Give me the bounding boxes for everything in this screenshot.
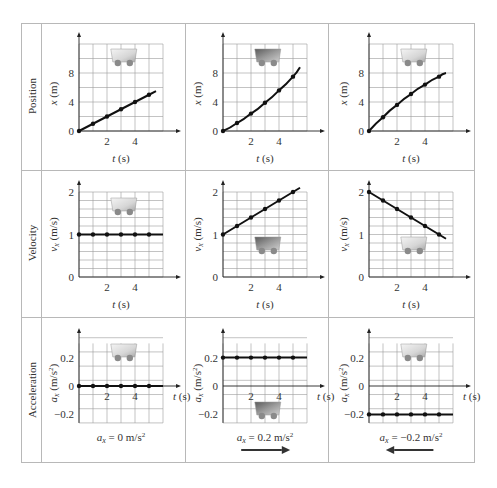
x-tick-label: 2	[248, 135, 254, 147]
data-line	[79, 91, 156, 131]
data-point	[119, 384, 123, 388]
x-axis-label: t (s)	[402, 152, 420, 165]
data-point	[91, 122, 95, 126]
data-point	[119, 232, 123, 236]
plot-acceleration-2: −0.200.224t (s)ax (m/s2)ax = 0.2 m/s2	[191, 328, 335, 454]
y-axis-label: ax (m/s2)	[47, 364, 61, 403]
data-point	[437, 74, 441, 78]
data-point	[221, 232, 225, 236]
data-point	[291, 190, 295, 194]
y-axis-label: vx (m/s)	[191, 217, 205, 252]
y-tick-label: 0	[213, 380, 219, 392]
y-tick-label: 0	[359, 271, 365, 283]
acceleration-caption: ax = 0 m/s2	[97, 431, 146, 445]
x-tick-label: 4	[132, 390, 138, 402]
y-axis-label: vx (m/s)	[47, 217, 61, 252]
data-point	[381, 198, 385, 202]
y-tick-label: 0	[69, 271, 75, 283]
cart-icon	[111, 198, 137, 215]
y-tick-label: 4	[69, 96, 75, 108]
data-point	[235, 224, 239, 228]
cart-icon	[111, 344, 137, 361]
data-line	[223, 67, 300, 131]
data-point	[133, 232, 137, 236]
data-point	[105, 384, 109, 388]
x-axis-label: t (s)	[173, 390, 191, 403]
acceleration-caption: ax = −0.2 m/s2	[380, 431, 443, 445]
y-tick-label: 4	[213, 96, 219, 108]
data-line	[223, 188, 300, 235]
data-point	[221, 129, 225, 133]
cart-icon	[111, 49, 137, 66]
plot-axes	[77, 180, 181, 279]
data-point	[249, 355, 253, 359]
plot-velocity-2: 01224t (s)vx (m/s)	[191, 180, 325, 311]
data-point	[77, 232, 81, 236]
data-point	[119, 107, 123, 111]
row-label-velocity: Velocity	[26, 183, 38, 303]
data-point	[263, 101, 267, 105]
data-point	[409, 215, 413, 219]
y-tick-label: 2	[69, 186, 75, 198]
data-point	[423, 224, 427, 228]
y-tick-label: −0.2	[198, 408, 218, 420]
y-tick-label: 4	[359, 96, 365, 108]
data-point	[91, 232, 95, 236]
y-axis-label: ax (m/s2)	[337, 364, 351, 403]
y-tick-label: 0	[359, 125, 365, 137]
y-axis-label: vx (m/s)	[337, 217, 351, 252]
x-tick-label: 4	[422, 281, 428, 293]
data-point	[263, 355, 267, 359]
y-axis-label: x (m)	[47, 81, 60, 106]
motion-graphs-figure: 04824t (s)x (m)04824t (s)x (m)04824t (s)…	[0, 0, 497, 488]
x-tick-label: 4	[276, 281, 282, 293]
data-point	[381, 412, 385, 416]
y-tick-label: 0.2	[204, 352, 218, 364]
plot-axes	[367, 180, 471, 279]
data-point	[77, 384, 81, 388]
plot-position-3: 04824t (s)x (m)	[337, 32, 471, 165]
plot-acceleration-3: −0.200.224t (s)ax (m/s2)ax = −0.2 m/s2	[337, 328, 481, 454]
y-tick-label: 8	[69, 67, 75, 79]
y-tick-label: 2	[359, 186, 365, 198]
y-tick-label: 0	[69, 380, 75, 392]
data-point	[105, 114, 109, 118]
y-axis-label: x (m)	[337, 81, 350, 106]
plot-grid	[223, 192, 307, 277]
x-axis-label: t (s)	[317, 390, 335, 403]
data-point	[437, 412, 441, 416]
y-tick-label: 0	[213, 125, 219, 137]
data-point	[147, 384, 151, 388]
y-tick-label: 0.2	[60, 352, 74, 364]
x-tick-label: 4	[422, 390, 428, 402]
x-tick-label: 2	[104, 135, 110, 147]
x-axis-label: t (s)	[463, 390, 481, 403]
data-point	[91, 384, 95, 388]
arrow-left-icon	[386, 446, 434, 454]
data-point	[263, 207, 267, 211]
plot-acceleration-1: −0.200.224t (s)ax (m/s2)ax = 0 m/s2	[47, 328, 191, 445]
x-tick-label: 4	[132, 281, 138, 293]
data-point	[423, 82, 427, 86]
y-tick-label: 0	[69, 125, 75, 137]
data-point	[291, 74, 295, 78]
plot-velocity-3: 01224t (s)vx (m/s)	[337, 180, 471, 311]
x-axis-label: t (s)	[402, 298, 420, 311]
data-point	[105, 232, 109, 236]
data-point	[409, 412, 413, 416]
x-axis-label: t (s)	[112, 152, 130, 165]
data-point	[277, 88, 281, 92]
cart-icon	[255, 49, 281, 66]
data-point	[77, 129, 81, 133]
x-axis-label: t (s)	[256, 298, 274, 311]
plot-position-1: 04824t (s)x (m)	[47, 32, 181, 165]
row-label-position: Position	[26, 36, 38, 156]
data-point	[367, 190, 371, 194]
y-tick-label: 2	[213, 186, 219, 198]
x-axis-label: t (s)	[112, 298, 130, 311]
x-tick-label: 2	[104, 281, 110, 293]
row-label-acceleration: Acceleration	[26, 330, 38, 450]
plot-position-2: 04824t (s)x (m)	[191, 32, 325, 165]
data-point	[437, 232, 441, 236]
data-point	[423, 412, 427, 416]
